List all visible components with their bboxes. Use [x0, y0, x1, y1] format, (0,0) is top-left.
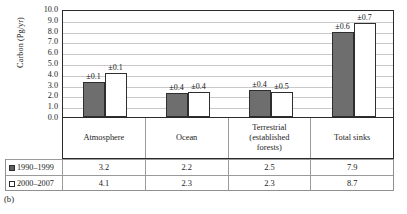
data-value-cell: 8.7: [311, 176, 393, 191]
category-label-line: Atmosphere: [83, 133, 124, 143]
y-tick-label: 4.0: [48, 71, 58, 79]
data-value-cell: 2.5: [229, 160, 312, 175]
data-value-cell: 2.3: [146, 176, 229, 191]
error-label: ±0.7: [350, 14, 380, 22]
data-value-cell: 4.1: [63, 176, 146, 191]
y-tick-label: 8.0: [48, 28, 58, 36]
category-label-line: forests): [249, 143, 289, 153]
category-label-line: (established: [249, 133, 289, 143]
category-label-line: Terrestrial: [249, 123, 289, 133]
data-legend-table: 1990–19993.22.22.57.92000–20074.12.32.38…: [5, 159, 394, 191]
bar-series1: [166, 93, 188, 117]
plot-area: ±0.1±0.1±0.4±0.4±0.4±0.5±0.6±0.7: [62, 10, 394, 118]
y-tick-label: 5.0: [48, 60, 58, 68]
error-label: ±0.1: [101, 64, 131, 72]
category-label-line: Total sinks: [334, 133, 370, 143]
series-name: 1990–1999: [17, 163, 54, 172]
bar-series1: [332, 32, 354, 117]
data-value-cell: 3.2: [63, 160, 146, 175]
legend-cell: 2000–2007: [6, 176, 63, 191]
y-tick-label: 9.0: [48, 17, 58, 25]
y-axis-tick-labels: 10.09.08.07.06.05.04.03.02.01.00.0: [24, 6, 58, 118]
error-label: ±0.4: [184, 83, 214, 91]
category-label-line: Ocean: [176, 133, 197, 143]
data-value-cell: 2.2: [146, 160, 229, 175]
category-label-row: AtmosphereOceanTerrestrial(establishedfo…: [62, 118, 394, 159]
category-label: Total sinks: [311, 118, 393, 158]
bar-series2: [188, 92, 210, 117]
category-label: Terrestrial(establishedforests): [229, 118, 312, 158]
y-tick-label: 2.0: [48, 92, 58, 100]
y-tick-label: 7.0: [48, 38, 58, 46]
bars-layer: ±0.1±0.1±0.4±0.4±0.4±0.5±0.6±0.7: [63, 11, 393, 117]
figure-caption: (b): [4, 194, 14, 204]
legend-cell: 1990–1999: [6, 160, 63, 175]
series-name: 2000–2007: [17, 179, 54, 188]
data-value-cell: 7.9: [311, 160, 393, 175]
open-square-icon: [9, 181, 15, 187]
bar-series2: [271, 92, 293, 117]
category-label: Atmosphere: [63, 118, 146, 158]
figure-panel-b: Carbon (Pg/yr) 10.09.08.07.06.05.04.03.0…: [0, 0, 407, 214]
bar-series2: [105, 73, 127, 117]
bar-series2: [354, 23, 376, 117]
table-row: 1990–19993.22.22.57.9: [6, 159, 393, 175]
table-row: 2000–20074.12.32.38.7: [6, 175, 393, 191]
filled-square-icon: [9, 165, 15, 171]
bar-series1: [249, 90, 271, 117]
bar-series1: [83, 82, 105, 117]
y-tick-label: 3.0: [48, 82, 58, 90]
y-tick-label: 1.0: [48, 103, 58, 111]
error-label: ±0.5: [267, 83, 297, 91]
data-value-cell: 2.3: [229, 176, 312, 191]
y-tick-label: 0.0: [48, 114, 58, 122]
y-tick-label: 6.0: [48, 49, 58, 57]
y-tick-label: 10.0: [44, 6, 58, 14]
category-label: Ocean: [146, 118, 229, 158]
